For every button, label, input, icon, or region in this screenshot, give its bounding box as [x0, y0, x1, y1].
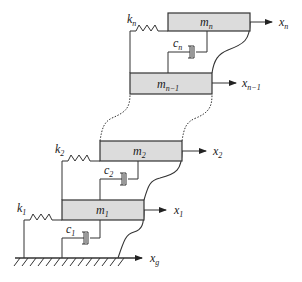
spring-k2-support — [62, 161, 68, 200]
damper-cn-label: cn — [173, 36, 182, 52]
damper-c1 — [80, 220, 100, 244]
damper-c2 — [118, 161, 138, 185]
spring-k1-label: k1 — [17, 201, 26, 217]
mdof-building-diagram: xg k1 c1 m1 x1 k2 c2 m2 x2 — [0, 0, 302, 282]
story-1: k1 c1 m1 x1 — [17, 200, 183, 258]
spring-kn-support — [130, 31, 136, 73]
ground: xg — [14, 251, 159, 267]
damper-cn — [186, 31, 207, 58]
displacement-x-n-minus-1-label: xn−1 — [241, 76, 261, 92]
spring-kn — [136, 25, 168, 31]
story-n: kn cn mn xn — [127, 12, 288, 73]
story-n-minus-1: mn−1 xn−1 — [130, 73, 261, 94]
damper-cn-linkage — [168, 52, 186, 73]
spring-k2 — [68, 155, 100, 161]
ground-displacement-label: xg — [149, 251, 159, 267]
spring-k1 — [30, 214, 62, 220]
spring-kn-label: kn — [127, 12, 136, 28]
story-2: k2 c2 m2 x2 — [55, 141, 222, 200]
spring-k2-label: k2 — [55, 142, 64, 158]
damper-c1-linkage — [62, 238, 80, 258]
damper-c2-label: c2 — [104, 163, 113, 179]
spring-k1-support — [24, 220, 30, 258]
ground-hatch — [14, 258, 124, 266]
displacement-x2-label: x2 — [212, 144, 222, 160]
damper-c2-linkage — [100, 179, 118, 200]
damper-c1-label: c1 — [66, 222, 75, 238]
dotted-column-left — [100, 94, 130, 141]
displacement-xn-label: xn — [278, 15, 288, 31]
omitted-stories — [100, 94, 212, 141]
displacement-x1-label: x1 — [173, 203, 183, 219]
dotted-column-right — [182, 94, 212, 141]
